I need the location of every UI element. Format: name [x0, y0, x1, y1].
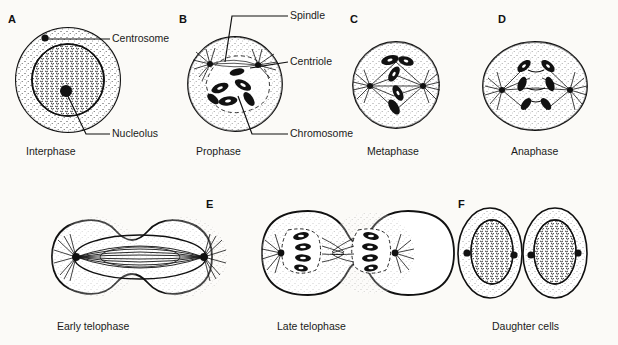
label-spindle: Spindle	[290, 9, 325, 21]
centriole-right-C	[420, 83, 426, 89]
mitosis-diagram: A B C D E F Interphase Prophase Metaphas…	[0, 0, 618, 345]
caption-daughter-cells: Daughter cells	[492, 320, 559, 332]
caption-prophase: Prophase	[196, 145, 241, 157]
centriole-inner-left-daughter	[510, 251, 517, 258]
centriole-right-daughter	[574, 249, 581, 256]
centriole-left-D	[499, 87, 505, 93]
caption-anaphase: Anaphase	[511, 145, 558, 157]
centriole-left-C	[367, 83, 373, 89]
cell-metaphase	[351, 40, 443, 132]
cell-late-telophase	[248, 211, 454, 296]
centriole-left-early-telophase	[72, 253, 80, 261]
caption-interphase: Interphase	[26, 145, 76, 157]
caption-early-telophase: Early telophase	[57, 320, 129, 332]
centriole-right-D	[567, 87, 573, 93]
panel-letter-f: F	[458, 198, 465, 210]
label-centriole: Centriole	[290, 55, 332, 67]
label-chromosome: Chromosome	[290, 127, 353, 139]
centriole-right-late-telophase	[392, 250, 399, 257]
panel-letter-a: A	[8, 13, 16, 25]
nucleolus-A	[60, 85, 72, 97]
mitosis-illustration	[0, 0, 618, 345]
centriole-inner-right-daughter	[527, 251, 534, 258]
panel-letter-b: B	[179, 13, 187, 25]
centriole-right-early-telophase	[200, 253, 208, 261]
centriole-left-daughter	[463, 249, 470, 256]
label-centrosome: Centrosome	[112, 32, 169, 44]
cell-anaphase	[481, 40, 591, 134]
panel-letter-e: E	[206, 198, 213, 210]
centriole-left-B	[207, 61, 213, 67]
centrosome-A	[41, 34, 48, 41]
cell-interphase	[14, 26, 124, 136]
caption-late-telophase: Late telophase	[277, 320, 346, 332]
label-nucleolus: Nucleolus	[112, 127, 158, 139]
caption-metaphase: Metaphase	[367, 145, 419, 157]
centriole-left-late-telophase	[278, 250, 285, 257]
panel-letter-d: D	[498, 13, 506, 25]
cell-prophase	[186, 35, 286, 135]
panel-letter-c: C	[350, 13, 358, 25]
